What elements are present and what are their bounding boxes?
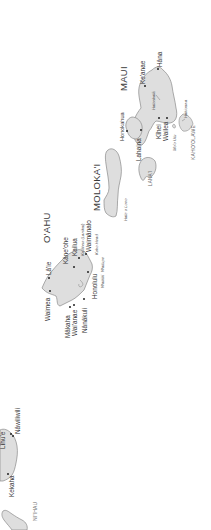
label-waimanalo: Waimānalo (85, 220, 92, 252)
label-oahu: O'AHU (41, 212, 52, 243)
label-lanai: LANA'I (148, 171, 153, 186)
label-hale-o-lono: Hale o Lono (123, 198, 128, 221)
label-nanakuli: Nānākuli (81, 308, 88, 333)
label-kailua: Kailua (71, 238, 78, 256)
label-kaneohe: Kāne'ohe (62, 237, 69, 264)
town-dot-honokahua (126, 130, 128, 132)
town-dot-makaha (69, 306, 71, 308)
town-dot-waimanalo (85, 253, 87, 255)
town-dot-hana (157, 68, 159, 70)
label-molokai: MOLOKA'I (91, 163, 102, 211)
town-dot-lihue (10, 433, 12, 435)
town-dot-waianae (73, 304, 75, 306)
label-waianae: Wai'anae (71, 309, 78, 336)
niihau-island (2, 510, 27, 530)
label-makaha: Mākaha (64, 315, 71, 338)
label-haleakala: Haleakalā (151, 91, 156, 110)
label-moo-ulu: Mo'o Ulu (172, 134, 177, 151)
label-hakioawa: Hakioawa (183, 99, 188, 118)
town-dot-kekaha (7, 473, 9, 475)
town-dot-kaneohe (73, 266, 75, 268)
label-wailea: Wailea (162, 121, 169, 141)
label-lahaina: Lahaina (135, 138, 142, 161)
label-kahoolawe: KAHO'OLAWE (190, 125, 196, 160)
town-dot-nawiliwili (12, 435, 14, 437)
town-dot-laie (48, 277, 50, 279)
town-dot-lahaina (140, 129, 142, 131)
label-lihue: Līhu'e (0, 431, 6, 449)
label-wailupe: Wailupe (100, 256, 105, 272)
label-koko-head: Koko Head (94, 234, 99, 255)
label-nawiliwili: Nāwiliwili (14, 408, 21, 434)
town-dot-nanakuli (83, 298, 85, 300)
town-dot-keanae (144, 85, 146, 87)
label-maui: MAUI (118, 66, 129, 91)
label-kihei: Kīhei (155, 124, 162, 139)
town-dot-honolulu (87, 271, 89, 273)
town-dot-waimea (49, 290, 51, 292)
label-waimea: Waimea (44, 297, 51, 321)
label-kekaha: Kekaha (8, 475, 15, 497)
label-hana: Hāna (156, 51, 163, 67)
label-laie: Lā'ie (45, 261, 52, 275)
town-dot-wailea (166, 117, 168, 119)
town-dot-kihei (158, 117, 160, 119)
label-keanae: Ke'anae (139, 60, 146, 84)
label-waikiki: Waikīkī (100, 274, 105, 288)
label-honolulu: Honolulu (91, 273, 98, 299)
molokai-island (104, 149, 121, 217)
town-dot-kailua (78, 257, 80, 259)
label-niihau: NI'IHAU (32, 502, 38, 521)
label-honokahua: Honokahua (119, 111, 125, 141)
hawaii-map: MAUI Hāna Ke'anae Haleakalā Honokahua La… (0, 0, 211, 530)
molokini-islet (173, 124, 176, 128)
